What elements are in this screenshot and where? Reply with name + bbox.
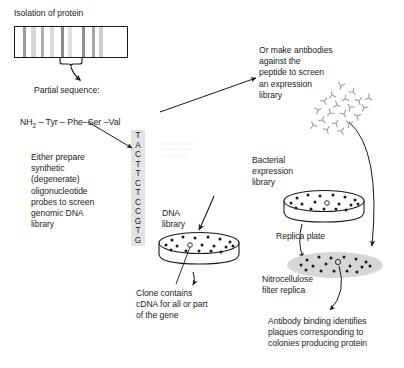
leader-colony-to-clone-text — [176, 247, 190, 284]
diagram-canvas: TACTTCTCCGTG oligonucleotide probes anne… — [0, 0, 404, 368]
label-isolation-of-protein: Isolation of protein — [14, 8, 83, 19]
dna-base-1: T — [135, 131, 140, 140]
gel-band-6 — [68, 27, 73, 57]
gel-band-4 — [50, 27, 54, 57]
peptide-dash-1: – — [36, 117, 45, 127]
gel-band-5 — [61, 27, 64, 57]
dna-base-11: T — [135, 226, 140, 235]
label-bacterial-expression-library: Bacterial expression library — [252, 155, 328, 189]
dna-library-colonies — [165, 236, 235, 254]
dna-library-petri-dish — [159, 233, 239, 265]
gel-band-9 — [99, 27, 103, 57]
peptide-phe: Phe — [67, 117, 83, 127]
highlighted-clone-colony — [188, 243, 193, 248]
peptide-val: Val — [108, 117, 120, 127]
bacterial-colonies — [290, 194, 360, 212]
peptide-nh: NH — [20, 117, 33, 127]
peptide-tyr: Tyr — [46, 117, 58, 127]
peptide-dash-2: – — [58, 117, 68, 127]
faint-artifact-text: oligonucleotide probes anneal to sequenc… — [160, 140, 214, 158]
gel-band-3 — [41, 27, 44, 57]
bacterial-expression-petri-dish — [284, 191, 364, 223]
label-replica-plate: Replica plate — [276, 231, 325, 242]
peptide-ser: Ser — [88, 117, 102, 127]
gel-band-7 — [82, 27, 85, 57]
label-left-branch-oligonucleotide: Either prepare synthetic (degenerate) ol… — [31, 152, 136, 230]
label-partial-sequence-header: Partial sequence: — [34, 85, 100, 96]
gel-band-8 — [92, 27, 95, 57]
gel-band-2 — [31, 27, 36, 57]
dna-base-7: T — [135, 188, 140, 197]
label-nitrocellulose-filter-replica: Nitrocellulose filter replica — [262, 274, 350, 296]
label-antibody-binding-result: Antibody binding identifies plaques corr… — [268, 316, 404, 350]
arrow-to-clone-text — [193, 272, 195, 285]
highlighted-plaque — [335, 259, 340, 264]
arrow-oligo-to-dna-library — [199, 196, 214, 230]
label-right-branch-antibodies: Or make antibodies against the peptide t… — [259, 45, 365, 101]
dna-base-12: G — [135, 236, 141, 245]
arrow-sequence-to-antibodies — [160, 78, 256, 112]
label-dna-library: DNA library — [162, 208, 185, 230]
dna-base-5: T — [135, 169, 140, 178]
highlighted-bacterial-colony — [325, 201, 330, 206]
protein-gel — [14, 26, 128, 58]
dna-base-4: T — [135, 160, 140, 169]
filter-plaques — [300, 256, 372, 274]
gel-band-1 — [23, 27, 26, 57]
label-clone-contains: Clone contains cDNA for all or part of t… — [136, 288, 258, 322]
arrow-gel-to-sequence — [71, 67, 81, 81]
arrow-antibodies-to-filter — [349, 122, 374, 246]
dna-base-2: A — [135, 141, 140, 150]
label-peptide-sequence: NH2 – Tyr – Phe–Ser –Val — [20, 106, 120, 131]
gel-brace — [60, 58, 82, 67]
